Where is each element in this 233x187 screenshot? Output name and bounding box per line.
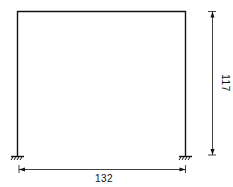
left-fixed-support-icon <box>11 157 24 161</box>
height-dimension <box>208 12 216 156</box>
span-label: 132 <box>95 173 113 184</box>
arrow-left-icon <box>19 168 25 172</box>
arrow-down-icon <box>211 149 215 155</box>
portal-frame-diagram: 132 117 <box>0 0 233 187</box>
right-fixed-support-icon <box>179 157 192 161</box>
span-dimension <box>19 165 186 173</box>
arrow-right-icon <box>180 168 186 172</box>
frame <box>17 11 186 156</box>
arrow-up-icon <box>211 12 215 18</box>
height-label: 117 <box>220 74 231 91</box>
